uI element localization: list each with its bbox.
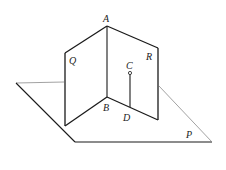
label-a: A bbox=[102, 13, 110, 24]
plane-r bbox=[107, 26, 158, 120]
dihedral-diagram: A Q R C B D P bbox=[0, 0, 226, 170]
label-c: C bbox=[126, 60, 133, 71]
label-q: Q bbox=[69, 55, 77, 66]
plane-p bbox=[16, 82, 212, 142]
label-d: D bbox=[122, 112, 131, 123]
plane-q bbox=[65, 26, 107, 126]
point-c bbox=[128, 71, 131, 74]
label-b: B bbox=[103, 102, 109, 113]
label-p: P bbox=[185, 129, 192, 140]
label-r: R bbox=[145, 51, 152, 62]
